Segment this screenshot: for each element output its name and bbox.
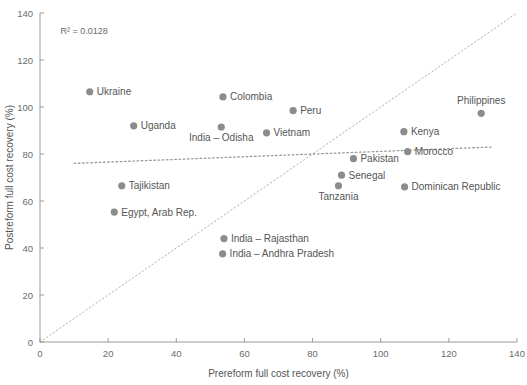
data-point: Ukraine [86,86,131,97]
point-label: India – Odisha [189,132,254,143]
x-tick-label: 20 [103,348,114,359]
x-tick-label: 60 [239,348,250,359]
y-tick-label: 60 [22,196,33,207]
x-tick-label: 0 [37,348,42,359]
data-point: Kenya [400,126,439,137]
data-point: Tanzania [318,182,358,202]
point-marker [338,172,345,179]
reference-line-group [40,13,517,342]
point-marker [219,250,226,257]
data-point: Senegal [338,170,385,181]
point-marker [401,183,408,190]
point-marker [290,107,297,114]
point-marker [111,208,118,215]
point-label: Ukraine [97,86,132,97]
point-marker [118,182,125,189]
data-point: India – Odisha [189,123,254,143]
scatter-chart: 020406080100120140 020406080100120140 Uk… [0,0,527,385]
x-axis-ticks: 020406080100120140 [37,338,525,359]
point-marker [219,93,226,100]
point-label: Morocco [415,146,454,157]
point-label: Pakistan [360,153,398,164]
data-point: Philippines [457,95,505,117]
point-marker [404,148,411,155]
r-squared-annotation: R² = 0.0128 [60,26,107,36]
y-axis-title: Postreform full cost recovery (%) [4,105,15,250]
point-marker [350,155,357,162]
point-marker [86,88,93,95]
forty-five-degree-line [40,13,517,342]
point-label: India – Andhra Pradesh [230,248,335,259]
y-tick-label: 0 [28,337,33,348]
point-label: Tajikistan [129,180,170,191]
x-axis-title: Prereform full cost recovery (%) [208,368,349,379]
data-point: Morocco [404,146,453,157]
point-marker [263,129,270,136]
y-tick-label: 20 [22,290,33,301]
y-tick-label: 40 [22,243,33,254]
y-tick-label: 100 [17,102,33,113]
data-point: Colombia [219,91,272,102]
data-point: Vietnam [263,127,310,138]
x-tick-label: 100 [373,348,389,359]
y-tick-label: 80 [22,149,33,160]
point-label: Colombia [230,91,273,102]
point-label: Kenya [411,126,440,137]
x-tick-label: 40 [171,348,182,359]
data-point: Pakistan [350,153,399,164]
point-marker [335,182,342,189]
y-tick-label: 140 [17,8,33,19]
chart-canvas: 020406080100120140 020406080100120140 Uk… [0,0,527,385]
point-label: Peru [300,105,321,116]
point-label: Uganda [141,120,176,131]
point-marker [218,123,225,130]
point-label: Tanzania [318,191,358,202]
point-label: Vietnam [274,127,311,138]
point-marker [220,235,227,242]
data-point: Uganda [130,120,176,131]
point-label: Senegal [349,170,386,181]
point-label: India – Rajasthan [231,233,309,244]
point-label: Egypt, Arab Rep. [121,207,197,218]
point-label: Dominican Republic [412,181,501,192]
x-tick-label: 80 [307,348,318,359]
data-points-group: UkraineColombiaPeruPhilippinesUgandaIndi… [86,86,505,259]
x-tick-label: 120 [441,348,457,359]
data-point: India – Andhra Pradesh [219,248,334,259]
data-point: Tajikistan [118,180,170,191]
point-marker [130,122,137,129]
point-marker [400,128,407,135]
data-point: Peru [290,105,322,116]
data-point: India – Rajasthan [220,233,308,244]
data-point: Dominican Republic [401,181,501,192]
point-marker [478,110,485,117]
point-label: Philippines [457,95,505,106]
x-tick-label: 140 [509,348,525,359]
y-tick-label: 120 [17,55,33,66]
data-point: Egypt, Arab Rep. [111,207,197,218]
